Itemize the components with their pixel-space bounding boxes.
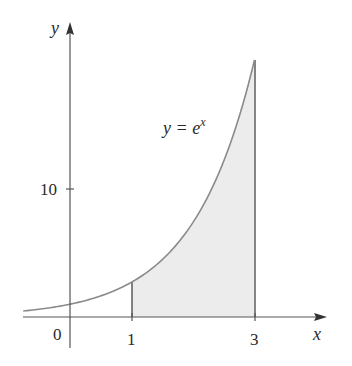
y-tick-label-10: 10 — [40, 180, 57, 199]
chart: y x 0 1 3 10 y = ex — [0, 0, 352, 366]
shaded-area — [132, 60, 255, 317]
function-label-exponent: x — [199, 115, 206, 129]
x-tick-label-1: 1 — [127, 330, 136, 349]
y-axis-label: y — [49, 18, 59, 38]
x-axis-label: x — [312, 324, 321, 344]
origin-label: 0 — [53, 325, 62, 344]
function-label: y = ex — [161, 115, 206, 138]
x-tick-label-3: 3 — [250, 330, 259, 349]
function-label-main: y = e — [161, 118, 200, 138]
